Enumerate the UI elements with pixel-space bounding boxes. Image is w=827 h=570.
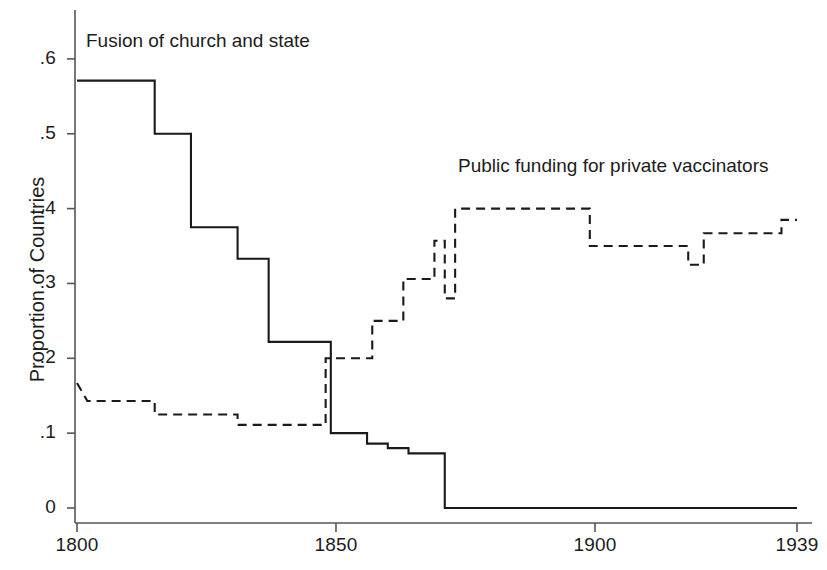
y-tick-label: .4 <box>16 197 56 219</box>
series-line-fusion-of-church-and-state <box>77 81 797 508</box>
annotation-fusion-of-church-and-state: Fusion of church and state <box>86 30 310 52</box>
chart-figure: Proportion of Countries 0.1.2.3.4.5.6 18… <box>0 0 827 570</box>
y-tick-label: .2 <box>16 346 56 368</box>
y-tick-label: .3 <box>16 271 56 293</box>
x-tick-label: 1850 <box>296 534 376 556</box>
chart-plot-area <box>0 0 827 570</box>
y-tick-label: 0 <box>16 496 56 518</box>
y-tick-label: .5 <box>16 122 56 144</box>
x-tick-label: 1900 <box>555 534 635 556</box>
series-line-public-funding-for-private-vaccinators <box>77 209 797 425</box>
y-tick-label: .6 <box>16 47 56 69</box>
x-tick-marks <box>77 523 797 532</box>
axis-lines <box>75 10 812 523</box>
x-tick-label: 1939 <box>757 534 827 556</box>
annotation-public-funding-for-private-vaccinators: Public funding for private vaccinators <box>458 155 769 177</box>
y-tick-marks <box>67 59 75 508</box>
y-tick-label: .1 <box>16 421 56 443</box>
x-tick-label: 1800 <box>37 534 117 556</box>
